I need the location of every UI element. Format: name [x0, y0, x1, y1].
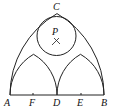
label-p: P [51, 26, 58, 37]
label-b: B [101, 97, 107, 108]
inner-arc-left-a [10, 54, 34, 95]
label-e: E [76, 97, 83, 108]
label-c: C [53, 1, 60, 12]
label-f: F [28, 97, 36, 108]
inner-arc-left-d [34, 54, 58, 95]
center-cross-2 [54, 38, 60, 44]
label-d: D [52, 97, 61, 108]
gothic-arch-diagram: C P A F D E B [0, 0, 113, 110]
inner-arc-right-b [81, 54, 105, 95]
label-a: A [3, 97, 11, 108]
inner-arc-right-d [57, 54, 81, 95]
